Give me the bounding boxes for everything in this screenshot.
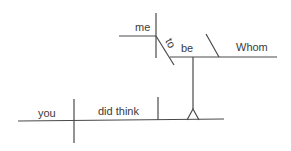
word-infinitive-verb: be — [181, 42, 193, 54]
diagram-canvas: you did think me to be Whom — [0, 0, 291, 151]
word-subject: you — [38, 107, 56, 119]
word-verb: did think — [98, 105, 139, 117]
word-infinitive-subject: me — [135, 21, 150, 33]
word-complement: Whom — [236, 41, 268, 53]
main-baseline — [18, 119, 224, 121]
pedestal-triangle — [187, 109, 199, 120]
sentence-diagram: you did think me to be Whom — [0, 0, 291, 151]
complement-slant — [206, 34, 219, 57]
word-infinitive-to: to — [163, 36, 178, 50]
